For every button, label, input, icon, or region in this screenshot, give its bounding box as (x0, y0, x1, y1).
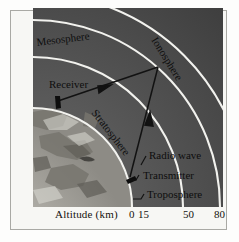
atmosphere-diagram: Mesosphere Ionosphere Stratosphere Recei… (33, 8, 223, 207)
label-receiver: Receiver (49, 78, 88, 90)
axis-tick-80: 80 (214, 208, 225, 220)
label-radio-wave: Radio wave (149, 149, 201, 161)
figure-page: Mesosphere Ionosphere Stratosphere Recei… (0, 0, 239, 242)
diagram-canvas: Mesosphere Ionosphere Stratosphere Recei… (33, 8, 223, 207)
label-troposphere: Troposphere (147, 188, 202, 200)
altitude-axis: Altitude (km) 0 15 50 80 (33, 207, 223, 225)
axis-tick-50: 50 (183, 208, 194, 220)
receiver-marker (55, 96, 61, 109)
axis-tick-0: 0 (129, 208, 135, 220)
axis-tick-15: 15 (138, 208, 149, 220)
label-transmitter: Transmitter (143, 169, 194, 181)
axis-label: Altitude (km) (55, 208, 118, 220)
